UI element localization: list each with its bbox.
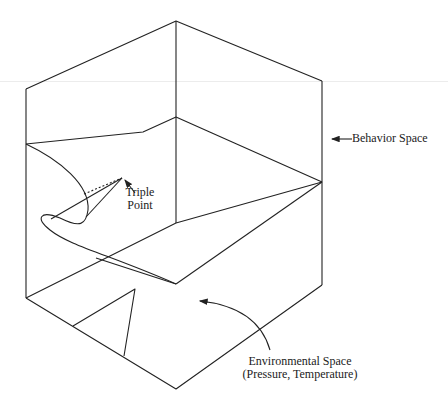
triple-point-label-line2: Point (120, 199, 160, 212)
phase-diagram (0, 0, 448, 409)
triple-point-dashed (84, 178, 122, 194)
inner-floor-edge (26, 182, 322, 298)
floor-middle-edge (96, 258, 176, 284)
phase-boundary-curve (26, 144, 176, 284)
environmental-space-arrow (200, 301, 270, 350)
behavior-space-label: Behavior Space (352, 132, 428, 145)
phase-line-from-triple (86, 178, 122, 217)
triple-point-label: Triple Point (120, 186, 160, 212)
behavior-surface-edge (26, 117, 322, 182)
environmental-space-label-line2: (Pressure, Temperature) (230, 368, 370, 381)
phase-line-to-triple (51, 178, 122, 219)
inner-floor-right (176, 182, 322, 284)
environmental-space-label: Environmental Space (Pressure, Temperatu… (230, 355, 370, 381)
box-top-left-edge (26, 21, 322, 89)
